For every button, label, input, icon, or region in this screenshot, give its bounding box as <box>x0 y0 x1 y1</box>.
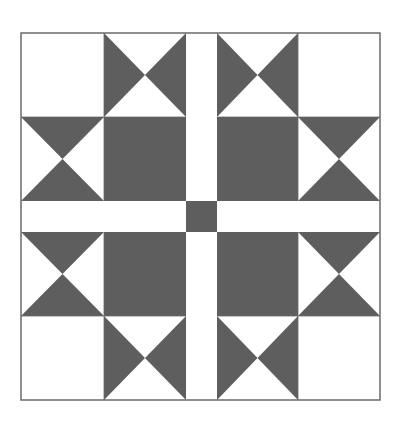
light-square <box>21 316 104 400</box>
quilt-cell-plain-light <box>298 316 380 400</box>
dark-square <box>104 117 186 201</box>
quilt-cell-sash-light <box>186 316 217 400</box>
quilt-cell-hourglass-vertical <box>21 232 104 316</box>
quilt-cell-bowtie-horizontal <box>217 33 298 117</box>
dark-square <box>217 117 298 201</box>
quilt-cell-plain-dark <box>217 117 298 201</box>
quilt-cell-sash-light <box>186 117 217 201</box>
quilt-cell-plain-dark <box>104 232 186 316</box>
light-square <box>21 33 104 117</box>
quilt-cell-sash-light <box>298 201 380 232</box>
quilt-cells <box>21 33 380 400</box>
dark-square <box>104 232 186 316</box>
quilt-cell-sash-light <box>104 201 186 232</box>
quilt-cell-center-dark <box>186 201 217 232</box>
quilt-cell-plain-light <box>21 316 104 400</box>
light-square <box>104 201 186 232</box>
quilt-cell-plain-light <box>21 33 104 117</box>
quilt-cell-bowtie-horizontal <box>104 33 186 117</box>
quilt-cell-sash-light <box>21 201 104 232</box>
light-square <box>186 232 217 316</box>
light-square <box>298 33 380 117</box>
quilt-cell-plain-dark <box>104 117 186 201</box>
dark-square <box>217 232 298 316</box>
quilt-cell-plain-dark <box>217 232 298 316</box>
quilt-cell-sash-light <box>186 232 217 316</box>
quilt-block-diagram <box>0 0 401 426</box>
light-square <box>186 117 217 201</box>
light-square <box>186 33 217 117</box>
quilt-cell-sash-light <box>217 201 298 232</box>
quilt-cell-plain-light <box>298 33 380 117</box>
quilt-cell-bowtie-horizontal <box>217 316 298 400</box>
quilt-cell-bowtie-horizontal <box>104 316 186 400</box>
light-square <box>186 316 217 400</box>
quilt-cell-hourglass-vertical <box>298 232 380 316</box>
light-square <box>217 201 298 232</box>
quilt-cell-hourglass-vertical <box>21 117 104 201</box>
dark-square <box>186 201 217 232</box>
light-square <box>298 201 380 232</box>
quilt-cell-sash-light <box>186 33 217 117</box>
light-square <box>21 201 104 232</box>
quilt-cell-hourglass-vertical <box>298 117 380 201</box>
light-square <box>298 316 380 400</box>
